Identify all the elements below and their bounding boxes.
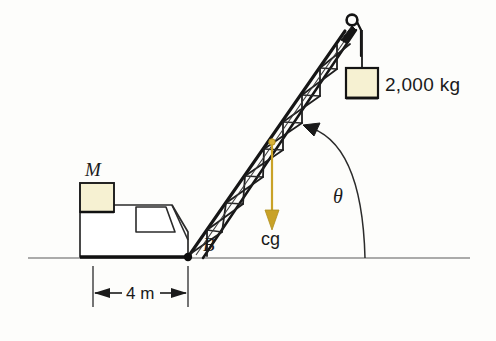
pivot-point-b-marker: [184, 253, 192, 261]
crane-diagram-figure: M B cg θ 2,000 kg 4 m: [0, 0, 496, 341]
pulley-sheave-icon: [347, 15, 358, 26]
cg-point-marker: [269, 139, 275, 145]
cg-arrow-head: [265, 210, 279, 230]
boom-angle-label: θ: [333, 186, 343, 206]
counterweight-block: [80, 183, 114, 212]
diagram-canvas: [0, 0, 496, 341]
load-mass-label: 2,000 kg: [385, 75, 460, 94]
dimension-arrowhead-right: [171, 288, 187, 298]
dimension-arrowhead-left: [94, 288, 110, 298]
pulley-hook-bracket: [357, 22, 361, 56]
cg-label: cg: [261, 230, 280, 248]
boom-chord-upper: [203, 30, 356, 258]
base-distance-label: 4 m: [126, 285, 154, 302]
counterweight-label: M: [85, 160, 101, 179]
pivot-label: B: [203, 235, 215, 254]
boom-angle-arrowhead: [303, 123, 320, 136]
boom-chord-lower: [188, 31, 345, 257]
suspended-load-block: [346, 68, 378, 98]
